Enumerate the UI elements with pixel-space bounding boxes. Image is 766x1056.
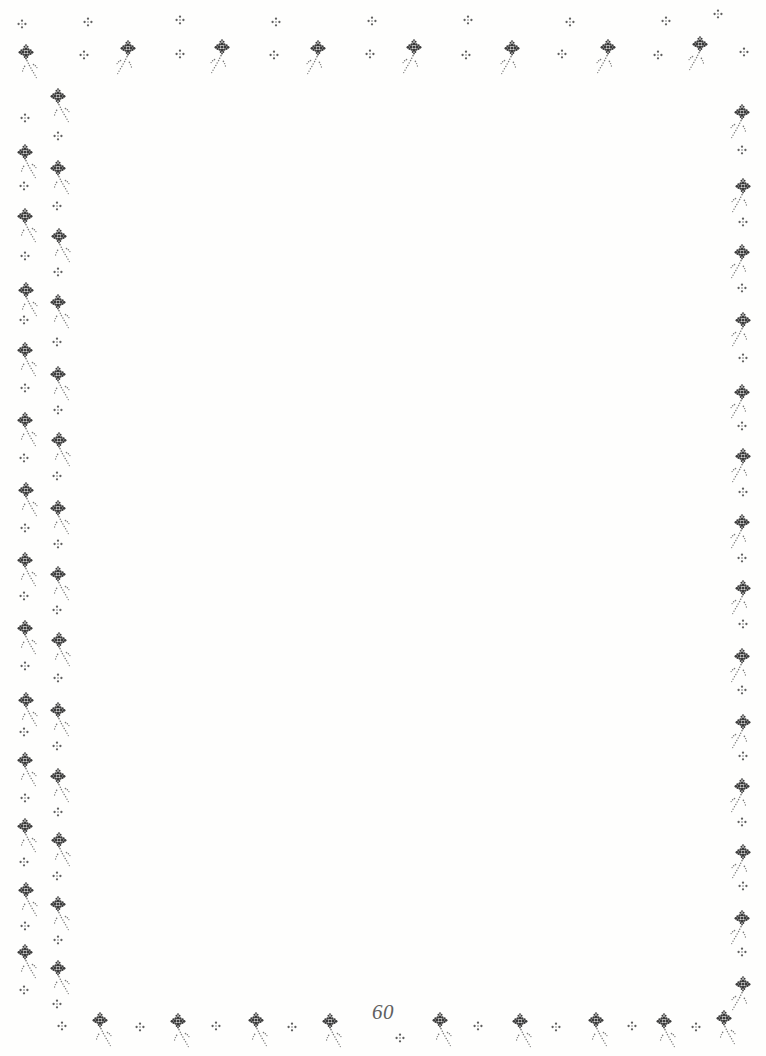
border-edge-left-inner xyxy=(51,88,71,1008)
border-edge-right xyxy=(730,104,750,1010)
scanned-page: 60 xyxy=(0,0,766,1056)
page-number: 60 xyxy=(0,1002,766,1023)
border-edge-left-outer xyxy=(18,114,38,995)
border-edge-top xyxy=(17,10,748,79)
page-content-area xyxy=(92,86,720,986)
